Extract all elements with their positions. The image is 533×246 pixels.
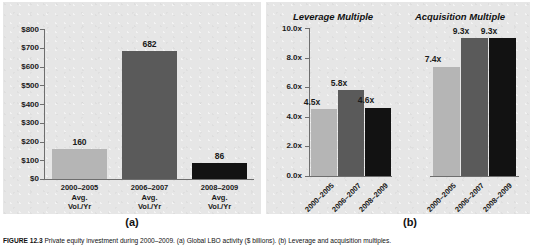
y-axis-label-0: $0 (5, 174, 39, 183)
y-axis-label-100: $100 (5, 156, 39, 165)
chart-panel-b: Leverage Multiple Acquisition Multiple 1… (266, 2, 530, 214)
y-axis-label-4x: 4.0x (266, 112, 302, 121)
x-category-line-2: Avg. (182, 193, 257, 203)
x-category-line-2: Avg. (112, 193, 187, 203)
x-axis-line (44, 179, 254, 180)
y-axis-label-6x: 6.0x (266, 82, 302, 91)
y-axis-label-200: $200 (5, 137, 39, 146)
y-axis-label-0x: 0.0x (266, 171, 302, 180)
y-axis-label-400: $400 (5, 100, 39, 109)
bar-value-acquisition-2000-2005: 7.4x (418, 54, 448, 64)
x-category-2000-2005: 2000–2005 Avg. Vol./Yr (42, 183, 117, 212)
x-category-line-1: 2008–2009 (182, 183, 257, 193)
x-axis-line-leverage (309, 176, 392, 177)
bar-2000-2005[interactable] (52, 149, 107, 179)
y-axis-label-2x: 2.0x (266, 141, 302, 150)
bar-2008-2009[interactable] (192, 163, 247, 179)
x-category-line-2: Avg. (42, 193, 117, 203)
bar-acquisition-2008-2009[interactable] (489, 38, 516, 176)
figure-caption-label: FIGURE 12.3 (3, 237, 43, 244)
x-category-line-3: Vol./Yr (42, 202, 117, 212)
bar-acquisition-2000-2005[interactable] (433, 67, 460, 177)
figure-caption-text: Private equity investment during 2000–20… (44, 237, 391, 244)
chart-multiples-group: Leverage Multiple Acquisition Multiple 1… (266, 2, 530, 214)
bar-value-2006-2007: 682 (122, 39, 177, 49)
chart-title-leverage-multiple: Leverage Multiple (274, 11, 392, 22)
bar-leverage-2000-2005[interactable] (311, 109, 337, 176)
x-category-line-3: Vol./Yr (112, 202, 187, 212)
bar-value-leverage-2006-2007: 5.8x (324, 78, 354, 88)
x-category-acquisition-2006-2007: 2006–2007 (453, 181, 486, 214)
x-category-acquisition-2008-2009: 2008–2009 (481, 181, 514, 214)
x-category-line-1: 2006–2007 (112, 183, 187, 193)
figure-caption: FIGURE 12.3 Private equity investment du… (3, 236, 530, 246)
y-axis-label-800: $800 (5, 25, 39, 34)
y-axis-label-600: $600 (5, 62, 39, 71)
y-axis-label-8x: 8.0x (266, 53, 302, 62)
x-category-line-3: Vol./Yr (182, 202, 257, 212)
y-axis-label-700: $700 (5, 43, 39, 52)
x-category-2006-2007: 2006–2007 Avg. Vol./Yr (112, 183, 187, 212)
chart-global-lbo-volume: $800 $700 $600 $500 $400 $300 $200 $100 … (3, 2, 261, 214)
y-axis-label-300: $300 (5, 118, 39, 127)
sublabel-b: (b) (388, 216, 432, 228)
bar-leverage-2008-2009[interactable] (365, 108, 391, 176)
bar-value-2000-2005: 160 (52, 137, 107, 147)
y-axis-label-500: $500 (5, 81, 39, 90)
bar-value-leverage-2000-2005: 4.5x (297, 97, 327, 107)
x-category-line-1: 2000–2005 (42, 183, 117, 193)
figure-container: $800 $700 $600 $500 $400 $300 $200 $100 … (0, 0, 533, 246)
chart-panel-a: $800 $700 $600 $500 $400 $300 $200 $100 … (3, 2, 261, 214)
plot-area-acquisition (430, 28, 519, 176)
bar-value-2008-2009: 86 (192, 151, 247, 161)
x-axis-line-acquisition (430, 176, 519, 177)
bar-2006-2007[interactable] (122, 51, 177, 179)
bar-value-acquisition-2008-2009: 9.3x (474, 26, 504, 36)
sublabel-a: (a) (110, 216, 154, 228)
bar-value-acquisition-2006-2007: 9.3x (446, 26, 476, 36)
bar-acquisition-2006-2007[interactable] (461, 38, 488, 176)
bar-value-leverage-2008-2009: 4.6x (351, 95, 381, 105)
y-axis-label-10x: 10.0x (266, 24, 302, 33)
x-category-acquisition-2000-2005: 2000–2005 (425, 181, 458, 214)
x-category-2008-2009: 2008–2009 Avg. Vol./Yr (182, 183, 257, 212)
chart-title-acquisition-multiple: Acquisition Multiple (396, 11, 524, 22)
